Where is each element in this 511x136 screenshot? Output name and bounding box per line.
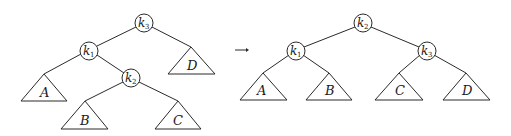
after-tree: A B C D k 2 k 1 k 3 — [240, 14, 490, 100]
subtree-C: C — [375, 73, 423, 100]
subtree-label-D: D — [461, 83, 473, 98]
subtree-B: B — [306, 73, 352, 100]
subtree-label-C: C — [395, 83, 405, 98]
edge-k1-B — [303, 55, 329, 73]
subtree-D: D — [168, 47, 215, 74]
subtree-B: B — [61, 101, 108, 129]
subtree-C: C — [155, 101, 201, 129]
edge-k1-k2 — [97, 55, 124, 73]
node-k3: k 3 — [418, 42, 436, 60]
svg-text:1: 1 — [90, 51, 94, 59]
edge-k2-k3 — [371, 27, 419, 47]
subtree-label-A: A — [256, 83, 266, 98]
subtree-label-B: B — [79, 113, 90, 128]
subtree-label-D: D — [186, 58, 198, 73]
subtree-label-A: A — [39, 85, 49, 100]
edge-k3-k1 — [97, 27, 136, 46]
before-tree: A B C D k 3 k 1 k 2 — [21, 14, 215, 129]
edge-k3-D — [152, 27, 191, 47]
node-k1: k 1 — [287, 42, 305, 60]
svg-text:1: 1 — [297, 51, 301, 59]
transform-arrow — [235, 48, 249, 52]
edge-k2-C — [139, 82, 178, 101]
subtree-A: A — [240, 73, 287, 100]
edge-k3-D — [434, 55, 466, 73]
svg-text:3: 3 — [145, 23, 149, 31]
svg-text:2: 2 — [132, 78, 136, 86]
subtree-label-B: B — [324, 83, 335, 98]
node-k1: k 1 — [80, 42, 98, 60]
node-k3: k 3 — [135, 14, 153, 32]
subtree-D: D — [443, 73, 490, 100]
edge-k3-C — [399, 55, 420, 73]
svg-text:3: 3 — [428, 51, 432, 59]
svg-text:2: 2 — [364, 23, 368, 31]
subtree-label-C: C — [173, 113, 183, 128]
edge-k1-A — [44, 54, 81, 74]
edge-k1-A — [263, 55, 289, 73]
edge-k2-B — [85, 82, 123, 101]
subtree-A: A — [21, 74, 67, 101]
node-k2: k 2 — [122, 69, 140, 87]
node-k2: k 2 — [354, 14, 372, 32]
edge-k2-k1 — [304, 27, 355, 47]
tree-rotation-diagram: A B C D k 3 k 1 k 2 — [0, 0, 511, 136]
